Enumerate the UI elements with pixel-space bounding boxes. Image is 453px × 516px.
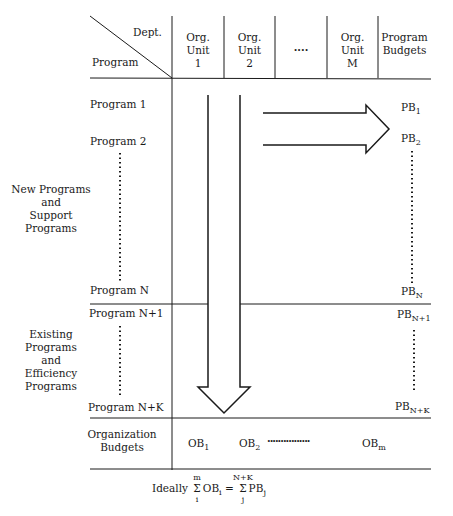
column-header-program-budgets: Program Budgets [378, 31, 431, 57]
corner-program-label: Program [92, 56, 138, 69]
program-budget-n-plus-1: PBN+1 [397, 308, 431, 321]
program-budget-n: PBN [401, 285, 423, 298]
corner-dept-label: Dept. [133, 26, 162, 39]
column-header-ellipsis: ···· [275, 44, 327, 57]
right-arrow [263, 105, 389, 153]
group-label-existing-programs: Existing Programs and Efficiency Program… [8, 328, 94, 393]
program-n-label: Program N [90, 284, 149, 297]
sum-symbol-i: mΣi [193, 482, 200, 495]
program-1-label: Program 1 [90, 98, 146, 111]
organization-budgets-label: Organization Budgets [86, 428, 158, 454]
org-budget-1: OB1 [188, 437, 209, 450]
org-budget-2: OB2 [239, 437, 260, 450]
program-2-label: Program 2 [90, 135, 146, 148]
down-arrow [198, 95, 250, 413]
program-budget-2: PB2 [401, 132, 421, 145]
org-budget-m: OBm [362, 437, 386, 450]
org-budget-dots: ················ [267, 435, 310, 448]
program-n-plus-1-label: Program N+1 [89, 307, 163, 320]
program-n-plus-k-label: Program N+K [88, 401, 164, 414]
ideally-formula: Ideally mΣiOBi = N+KΣjPBj [152, 482, 266, 495]
sum-symbol-j: N+KΣj [239, 482, 246, 495]
column-header-org-unit-1: Org. Unit 1 [172, 31, 224, 70]
column-header-org-unit-2: Org. Unit 2 [224, 31, 275, 70]
program-budget-1: PB1 [401, 101, 421, 114]
group-label-new-programs: New Programs and Support Programs [8, 183, 94, 235]
program-budget-n-plus-k: PBN+K [395, 400, 429, 413]
column-header-org-unit-m: Org. Unit M [327, 31, 378, 70]
